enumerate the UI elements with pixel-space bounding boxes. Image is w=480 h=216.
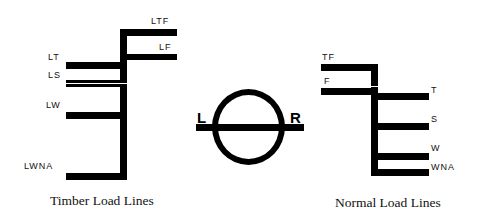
timber-label-lw: LW <box>46 100 61 110</box>
plimsoll-label-r: R <box>290 110 301 125</box>
timber-ltf-line <box>120 29 177 36</box>
plimsoll-horizontal-bar <box>196 124 304 131</box>
normal-s-line <box>378 123 429 130</box>
normal-f-gap <box>371 86 378 87</box>
normal-caption: Normal Load Lines <box>335 196 441 210</box>
timber-vertical-bar <box>120 29 127 180</box>
timber-caption: Timber Load Lines <box>50 194 154 208</box>
normal-wna-line <box>371 169 429 176</box>
normal-tf-line <box>321 64 378 71</box>
normal-label-f: F <box>324 76 331 86</box>
timber-lwna-line <box>66 173 127 180</box>
timber-label-lf: LF <box>159 42 172 52</box>
normal-w-line <box>378 153 429 160</box>
timber-label-lt: LT <box>48 52 60 62</box>
timber-lw-line <box>66 112 120 119</box>
normal-label-wna: WNA <box>431 162 455 172</box>
normal-label-tf: TF <box>322 52 335 62</box>
timber-label-ltf: LTF <box>151 16 169 26</box>
normal-label-s: S <box>431 114 438 124</box>
normal-f-line <box>321 88 371 95</box>
timber-lf-line <box>127 54 177 60</box>
timber-ls-gap <box>66 83 127 84</box>
timber-label-lwna: LWNA <box>24 161 53 171</box>
timber-label-ls: LS <box>48 70 61 80</box>
timber-lt-line <box>66 62 120 69</box>
normal-vertical-bar <box>371 64 378 176</box>
load-line-diagram: LTF LF LT LS LW LWNA Timber Load Lines L… <box>0 0 480 216</box>
plimsoll-label-l: L <box>197 110 206 125</box>
normal-label-t: T <box>431 85 438 95</box>
normal-t-line <box>378 93 429 100</box>
normal-label-w: W <box>431 143 441 153</box>
